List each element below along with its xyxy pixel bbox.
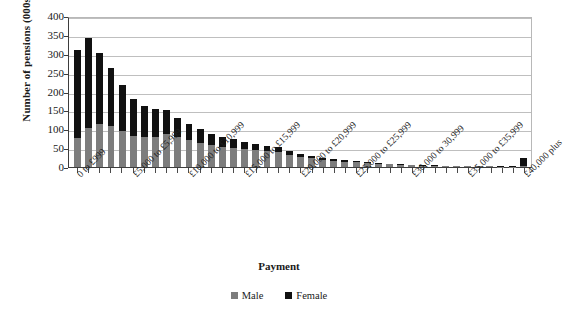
bar-segment-female xyxy=(74,50,81,138)
bar-segment-male xyxy=(130,136,137,167)
bar-segment-female xyxy=(119,85,126,130)
legend-label: Male xyxy=(242,290,264,301)
bar-segment-female xyxy=(141,106,148,137)
bar-stack xyxy=(186,124,193,167)
bar-slot[interactable] xyxy=(295,18,306,167)
y-tick-label: 100 xyxy=(30,124,64,135)
y-tick-mark xyxy=(64,111,68,112)
bar-stack xyxy=(486,166,493,167)
bar-segment-female xyxy=(152,109,159,137)
y-tick-label: 350 xyxy=(30,30,64,41)
bar-segment-male xyxy=(230,148,237,167)
bar-stack xyxy=(330,159,337,167)
bar-segment-male xyxy=(286,155,293,167)
bar-segment-female xyxy=(108,68,115,127)
bar-segment-female xyxy=(163,110,170,134)
y-tick-mark xyxy=(64,93,68,94)
bar-slot[interactable] xyxy=(362,18,373,167)
bar-stack xyxy=(386,164,393,167)
bar-segment-male xyxy=(186,140,193,167)
y-tick-label: 200 xyxy=(30,87,64,98)
bar-stack xyxy=(230,139,237,167)
bar-slot[interactable] xyxy=(351,18,362,167)
x-axis-title: Payment xyxy=(0,260,558,272)
y-tick-mark xyxy=(64,149,68,150)
bars-layer xyxy=(69,18,531,167)
bar-stack xyxy=(453,166,460,167)
bar-stack xyxy=(297,154,304,167)
bar-segment-male xyxy=(341,162,348,167)
bar-stack xyxy=(108,68,115,167)
bar-stack xyxy=(509,166,516,167)
bar-stack xyxy=(130,99,137,167)
bar-slot[interactable] xyxy=(239,18,250,167)
bar-slot[interactable] xyxy=(117,18,128,167)
bar-slot[interactable] xyxy=(94,18,105,167)
y-tick-label: 150 xyxy=(30,105,64,116)
bar-slot[interactable] xyxy=(72,18,83,167)
black-square-icon xyxy=(285,292,292,299)
bar-slot[interactable] xyxy=(395,18,406,167)
bar-stack xyxy=(119,85,126,167)
bar-slot[interactable] xyxy=(228,18,239,167)
bar-stack xyxy=(397,164,404,167)
bar-segment-male xyxy=(386,164,393,167)
bar-segment-male xyxy=(297,157,304,167)
bar-slot[interactable] xyxy=(183,18,194,167)
bar-stack xyxy=(74,50,81,167)
bar-stack xyxy=(442,166,449,167)
y-tick-label: 300 xyxy=(30,49,64,60)
bar-slot[interactable] xyxy=(339,18,350,167)
y-tick-label: 50 xyxy=(30,143,64,154)
bar-stack xyxy=(341,160,348,167)
bar-slot[interactable] xyxy=(473,18,484,167)
legend-item-female[interactable]: Female xyxy=(285,290,327,301)
bar-slot[interactable] xyxy=(306,18,317,167)
y-tick-mark xyxy=(64,168,68,169)
plot-area xyxy=(68,17,532,168)
bar-slot[interactable] xyxy=(139,18,150,167)
bar-stack xyxy=(241,142,248,167)
bar-segment-male xyxy=(431,166,438,167)
bar-segment-female xyxy=(520,158,527,166)
bar-slot[interactable] xyxy=(284,18,295,167)
y-tick-mark xyxy=(64,55,68,56)
legend-item-male[interactable]: Male xyxy=(231,290,264,301)
bar-segment-female xyxy=(96,53,103,124)
bar-slot[interactable] xyxy=(195,18,206,167)
bar-segment-female xyxy=(186,124,193,140)
bar-segment-male xyxy=(442,166,449,167)
chart-legend: MaleFemale xyxy=(0,290,558,301)
bar-segment-female xyxy=(85,38,92,127)
legend-label: Female xyxy=(296,290,327,301)
bar-slot[interactable] xyxy=(406,18,417,167)
bar-slot[interactable] xyxy=(250,18,261,167)
y-tick-label: 0 xyxy=(30,162,64,173)
bar-stack xyxy=(520,158,527,167)
y-tick-mark xyxy=(64,130,68,131)
bar-slot[interactable] xyxy=(105,18,116,167)
bar-segment-male xyxy=(397,165,404,167)
grey-square-icon xyxy=(231,292,238,299)
bar-segment-male xyxy=(375,164,382,167)
bar-slot[interactable] xyxy=(462,18,473,167)
bar-stack xyxy=(174,118,181,167)
bar-slot[interactable] xyxy=(128,18,139,167)
bar-segment-male xyxy=(241,149,248,167)
bar-stack xyxy=(431,165,438,167)
bar-slot[interactable] xyxy=(83,18,94,167)
x-axis-tick-labels: 0 to £999£5,000 to £5,999£10,000 to £10,… xyxy=(68,172,532,244)
bar-slot[interactable] xyxy=(506,18,517,167)
y-tick-mark xyxy=(64,17,68,18)
bar-segment-male xyxy=(486,166,493,167)
bar-slot[interactable] xyxy=(417,18,428,167)
bar-segment-male xyxy=(108,126,115,167)
bar-slot[interactable] xyxy=(172,18,183,167)
bar-slot[interactable] xyxy=(451,18,462,167)
bar-slot[interactable] xyxy=(518,18,529,167)
bar-segment-female xyxy=(208,134,215,145)
y-axis-tick-labels: 050100150200250300350400 xyxy=(28,17,64,168)
bar-segment-female xyxy=(130,99,137,136)
bar-stack xyxy=(286,151,293,167)
bar-segment-female xyxy=(241,142,248,149)
